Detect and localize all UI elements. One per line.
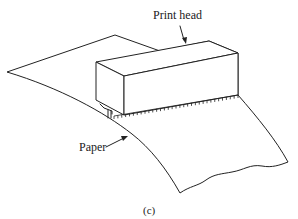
print-head-label: Print head	[153, 9, 202, 21]
paper-arrow	[106, 136, 128, 147]
paper-label: Paper	[79, 141, 106, 153]
figure-caption: (c)	[143, 205, 155, 216]
print-head-arrow	[180, 26, 187, 44]
print-head-diagram: Print head Paper (c)	[0, 0, 298, 219]
diagram-drawing	[0, 0, 298, 219]
